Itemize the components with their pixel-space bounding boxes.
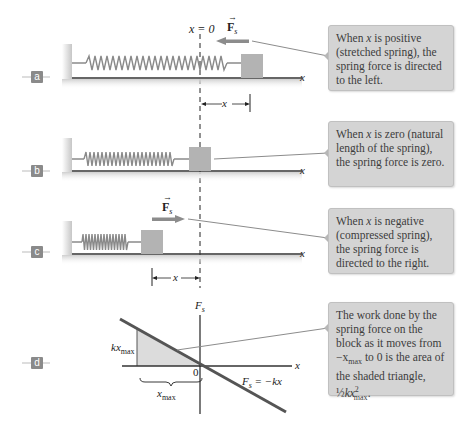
panel-label-d: d (31, 357, 43, 369)
callout-c: When x is negative (compressed spring), … (328, 208, 454, 274)
kxmax-label: kxmax (111, 341, 135, 356)
x-axis-label-c: x (300, 247, 305, 259)
x-axis-label-d: x (295, 359, 300, 371)
spring-stretched (86, 56, 227, 70)
origin-label: x = 0 (189, 22, 214, 37)
spring-natural (84, 152, 174, 166)
force-label-c: → Fs (162, 200, 172, 216)
force-label-a: → Fs (227, 20, 237, 36)
x-axis-label-a: x (300, 71, 305, 83)
block (241, 54, 263, 78)
force-arrow-left (216, 37, 249, 45)
callout-a: When x is positive (stretched spring), t… (328, 25, 454, 91)
callout-d: The work done by the spring force on the… (328, 302, 454, 396)
y-axis-label: Fs (195, 299, 205, 314)
wall (62, 44, 72, 79)
panel-label-b: b (31, 165, 43, 177)
x-axis-label-b: x (300, 164, 305, 176)
block (141, 230, 163, 254)
spring-compressed (82, 234, 128, 250)
equation-label: Fs = −kx (242, 375, 282, 390)
panel-label-a: a (31, 71, 43, 83)
origin-zero-label: 0 (193, 366, 199, 378)
callout-b: When x is zero (natural length of the sp… (328, 121, 454, 187)
panel-b-scene (62, 138, 328, 182)
panel-a-scene (62, 37, 328, 112)
xmax-brace (140, 378, 202, 386)
block (189, 147, 211, 171)
panel-c-scene (62, 215, 328, 286)
displacement-label-a: x (222, 97, 227, 109)
panel-label-c: c (31, 246, 43, 258)
xmax-label: xmax (157, 387, 176, 402)
displacement-label-c: x (173, 271, 178, 283)
